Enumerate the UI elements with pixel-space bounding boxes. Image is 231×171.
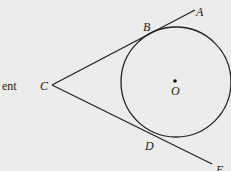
label-c: C [40,79,49,93]
label-e: E [215,163,224,171]
tangent-line-ca [52,10,195,85]
label-a: A [195,5,204,19]
tangent-diagram: ent A B C D E O [0,0,231,171]
tangent-line-ce [52,85,212,164]
label-b: B [143,20,151,34]
side-text: ent [2,79,17,93]
label-o: O [171,84,180,98]
center-point-o [173,79,177,83]
label-d: D [144,139,154,153]
